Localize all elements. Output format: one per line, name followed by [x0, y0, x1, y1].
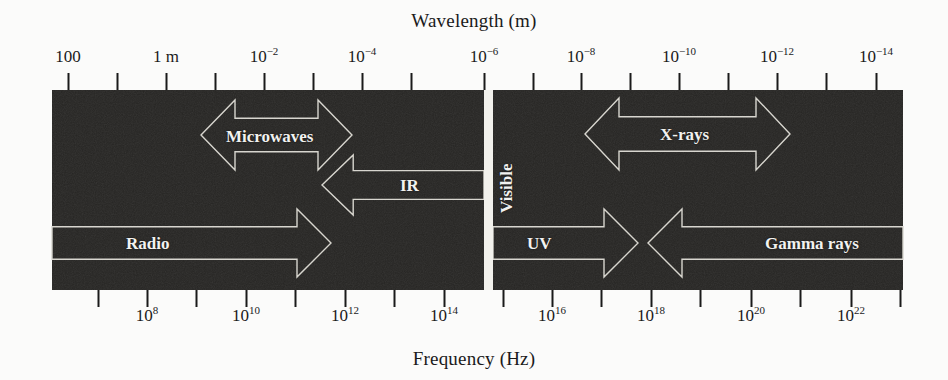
band-label-infrared: IR — [400, 177, 419, 194]
frequency-tick-label-0: 108 — [136, 307, 159, 324]
band-label-radio: Radio — [126, 235, 169, 252]
band-label-visible: Visible — [498, 164, 515, 213]
frequency-tick-label-4: 1016 — [538, 307, 566, 324]
visible-light-gap — [484, 90, 493, 290]
frequency-tick-label-2: 1012 — [331, 307, 359, 324]
wavelength-tick — [69, 73, 877, 90]
band-label-microwaves: Microwaves — [226, 128, 314, 145]
frequency-tick-label-5: 1018 — [637, 307, 665, 324]
band-label-xrays: X-rays — [660, 126, 709, 143]
frequency-tick-label-3: 1014 — [430, 307, 458, 324]
frequency-tick-label-1: 1010 — [232, 307, 260, 324]
frequency-axis-title: Frequency (Hz) — [0, 348, 948, 370]
band-label-gamma-rays: Gamma rays — [765, 235, 859, 252]
frequency-tick-label-7: 1022 — [837, 307, 865, 324]
frequency-tick-label-6: 1020 — [737, 307, 765, 324]
electromagnetic-spectrum-figure: Wavelength (m) 1001 m10−210−410−610−810−… — [0, 0, 948, 380]
frequency-tick — [99, 290, 901, 307]
band-label-ultraviolet: UV — [527, 235, 552, 252]
